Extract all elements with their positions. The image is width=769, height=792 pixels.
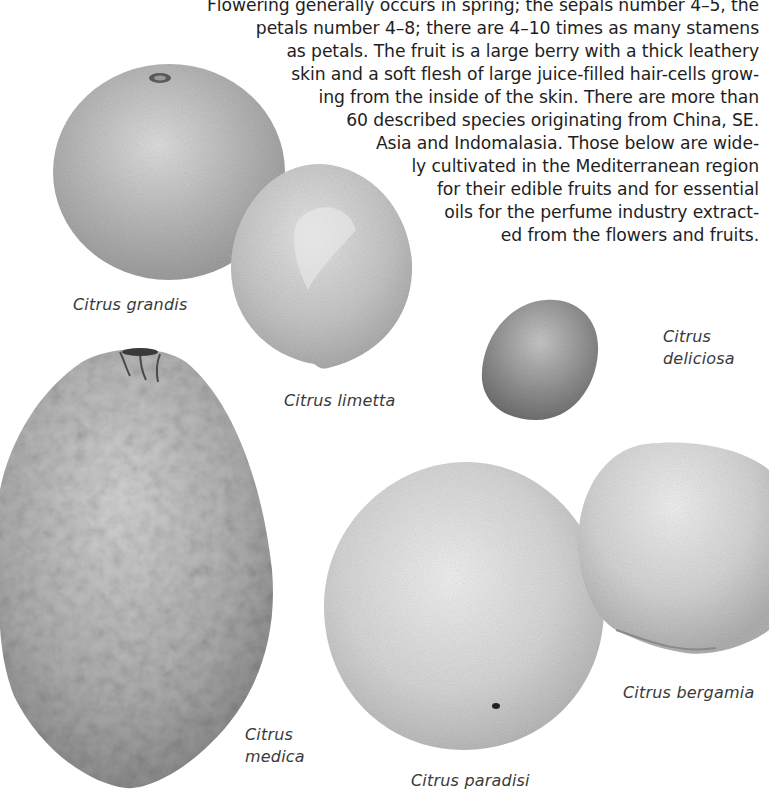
text-line: ing from the inside of the skin. There a… <box>318 86 759 109</box>
caption-citrus-grandis: Citrus grandis <box>73 294 187 315</box>
text-line: oils for the perfume industry extract- <box>444 201 759 224</box>
citrus-deliciosa-illustration <box>476 296 606 426</box>
citrus-paradisi-illustration <box>322 458 612 758</box>
text-line: Flowering generally occurs in spring; th… <box>207 0 759 17</box>
caption-citrus-deliciosa-line2: deliciosa <box>663 348 735 369</box>
citrus-bergamia-illustration <box>576 440 769 660</box>
text-line: skin and a soft flesh of large juice-fil… <box>291 63 759 86</box>
text-line: petals number 4–8; there are 4–10 times … <box>256 17 759 40</box>
caption-citrus-paradisi: Citrus paradisi <box>411 770 530 791</box>
caption-citrus-medica-line2: medica <box>245 746 305 767</box>
text-line: as petals. The fruit is a large berry wi… <box>286 40 759 63</box>
caption-citrus-deliciosa-line1: Citrus <box>663 326 711 347</box>
caption-citrus-bergamia: Citrus bergamia <box>623 682 754 703</box>
text-line: ed from the flowers and fruits. <box>501 224 759 247</box>
citrus-limetta-illustration <box>228 160 416 370</box>
text-line: for their edible fruits and for essentia… <box>437 178 759 201</box>
text-line: Asia and Indomalasia. Those below are wi… <box>376 132 759 155</box>
text-line: ly cultivated in the Mediterranean regio… <box>411 155 759 178</box>
caption-citrus-limetta: Citrus limetta <box>284 390 396 411</box>
caption-citrus-medica-line1: Citrus <box>245 724 293 745</box>
text-line: 60 described species originating from Ch… <box>346 109 759 132</box>
citrus-medica-illustration <box>0 340 278 792</box>
